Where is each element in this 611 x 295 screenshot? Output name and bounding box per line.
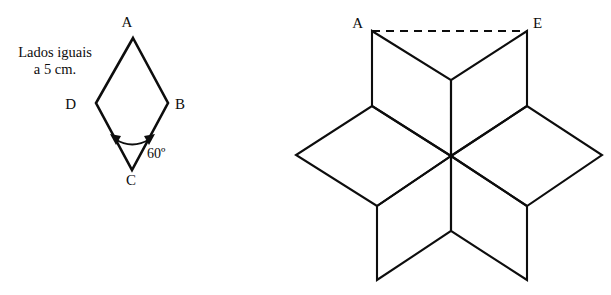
angle-arc-marker: [110, 134, 155, 145]
star-rhombus-upper-right: [451, 31, 527, 156]
star-figure: A E: [296, 15, 602, 280]
note-line-2: a 5 cm.: [34, 61, 76, 77]
rhombus-vertex-label-d: D: [65, 96, 76, 112]
star-vertex-label-e: E: [533, 15, 542, 31]
angle-value-label: 60º: [147, 146, 166, 161]
rhombus-vertex-label-b: B: [175, 96, 185, 112]
star-rhombus-right: [451, 106, 602, 206]
rhombus-figure: A B C D 60º: [65, 14, 185, 188]
geometry-diagram: A B C D 60º Lados iguais a 5 cm. A E: [0, 0, 611, 295]
rhombus-vertex-label-c: C: [126, 172, 136, 188]
rhombus-vertex-label-a: A: [122, 14, 133, 30]
star-rhombus-upper-left: [372, 31, 451, 156]
star-rhombus-lower-left: [377, 156, 451, 280]
star-vertex-label-a: A: [352, 15, 363, 31]
side-length-note: Lados iguais a 5 cm.: [18, 44, 92, 77]
geometry-figure-container: A B C D 60º Lados iguais a 5 cm. A E: [0, 0, 611, 295]
angle-arrowhead-left: [110, 134, 121, 145]
star-rhombus-lower-right: [451, 156, 527, 280]
star-rhombus-left: [296, 106, 451, 206]
note-line-1: Lados iguais: [18, 44, 92, 60]
